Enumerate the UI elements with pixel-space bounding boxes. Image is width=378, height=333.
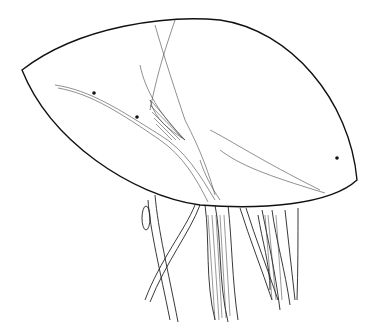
marker-dot-1: [92, 91, 96, 95]
neck-structures: [142, 195, 298, 322]
marker-dot-2: [135, 115, 139, 119]
marker-dot-3: [335, 156, 339, 160]
skin-flap-outline: [22, 19, 357, 207]
anatomy-drawing: [0, 0, 378, 333]
illustration-canvas: [0, 0, 378, 333]
muscle-hatching: [208, 215, 282, 320]
